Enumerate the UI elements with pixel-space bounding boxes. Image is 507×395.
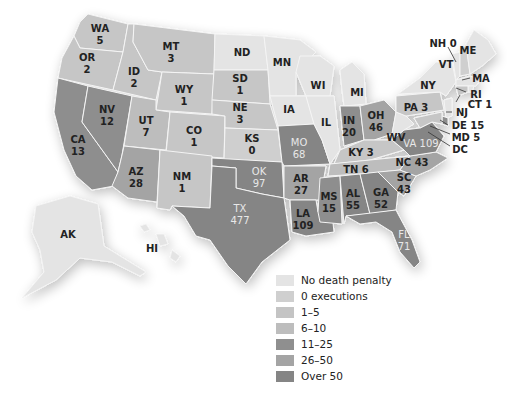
label-WI: WI — [311, 80, 326, 91]
label-MI: MI — [350, 87, 364, 98]
label-UT: UT — [139, 115, 154, 126]
legend-swatch — [276, 291, 294, 302]
label-GA: GA — [373, 187, 389, 198]
label-CT: CT 1 — [468, 99, 493, 110]
label-AL: AL — [346, 188, 361, 199]
value-LA: 109 — [293, 220, 314, 231]
value-UT: 7 — [143, 127, 150, 138]
state-AK[interactable] — [22, 196, 146, 298]
label-WY: WY — [175, 84, 194, 95]
us-map: WA 5 OR 2 CA 13 NV 12 ID 2 MT 3 WY 1 UT … — [0, 0, 507, 395]
label-LA: LA — [296, 208, 310, 219]
label-ND: ND — [234, 47, 251, 58]
label-OH: OH — [368, 110, 385, 121]
state-MI[interactable] — [340, 62, 366, 106]
legend-swatch — [276, 323, 294, 334]
label-IA: IA — [283, 104, 295, 115]
legend-item-26-50: 26–50 — [276, 352, 392, 368]
value-MO: 68 — [293, 149, 306, 160]
value-IN: 20 — [342, 127, 356, 138]
value-SC: 43 — [397, 184, 411, 195]
legend-label: 11–25 — [301, 338, 333, 350]
legend-swatch — [276, 339, 294, 350]
legend-label: 1–5 — [301, 306, 320, 318]
label-AK: AK — [60, 229, 77, 240]
label-HI: HI — [146, 243, 158, 254]
label-IN: IN — [343, 115, 355, 126]
legend-item-1-5: 1–5 — [276, 304, 392, 320]
value-GA: 52 — [374, 199, 388, 210]
label-KS: KS — [245, 133, 260, 144]
label-KY: KY 3 — [348, 147, 373, 158]
label-TN: TN 6 — [343, 164, 369, 175]
label-CO: CO — [186, 125, 202, 136]
legend-label: No death penalty — [301, 274, 392, 286]
value-OH: 46 — [369, 122, 383, 133]
state-NJ[interactable] — [444, 98, 452, 118]
state-CT[interactable] — [456, 86, 468, 96]
label-OK: OK — [252, 166, 267, 177]
label-MN: MN — [273, 57, 291, 68]
legend-item-11-25: 11–25 — [276, 336, 392, 352]
label-CA: CA — [70, 134, 85, 145]
label-ME: ME — [460, 45, 477, 56]
value-CA: 13 — [71, 146, 85, 157]
legend-item-0-executions: 0 executions — [276, 288, 392, 304]
value-NE: 3 — [237, 114, 244, 125]
map-legend: No death penalty 0 executions 1–5 6–10 1… — [276, 272, 392, 384]
value-SD: 1 — [237, 85, 244, 96]
label-SC: SC — [397, 172, 412, 183]
label-WA: WA — [91, 23, 110, 34]
legend-label: Over 50 — [301, 370, 343, 382]
value-MS: 15 — [322, 203, 336, 214]
value-TX: 477 — [230, 215, 249, 226]
label-NM: NM — [173, 171, 191, 182]
value-OK: 97 — [253, 178, 266, 189]
label-SD: SD — [232, 73, 248, 84]
label-NY: NY — [420, 80, 436, 91]
label-DE: DE 15 — [452, 120, 485, 131]
label-NC: NC 43 — [395, 157, 428, 168]
legend-swatch — [276, 355, 294, 366]
label-NJ: NJ — [456, 107, 468, 118]
label-VA: VA 109 — [403, 138, 438, 149]
value-AZ: 28 — [129, 178, 143, 189]
value-OR: 2 — [84, 64, 91, 75]
value-AR: 27 — [294, 185, 308, 196]
legend-swatch — [276, 307, 294, 318]
value-MT: 3 — [168, 53, 175, 64]
value-ID: 2 — [131, 78, 138, 89]
value-WY: 1 — [181, 96, 188, 107]
label-MT: MT — [163, 41, 180, 52]
legend-swatch — [276, 371, 294, 382]
value-KS: 0 — [249, 145, 256, 156]
value-NM: 1 — [179, 183, 186, 194]
label-OR: OR — [79, 52, 96, 63]
label-NV: NV — [99, 104, 115, 115]
legend-label: 0 executions — [301, 290, 368, 302]
legend-swatch — [276, 275, 294, 286]
label-DC: DC — [452, 144, 468, 155]
legend-item-no-death-penalty: No death penalty — [276, 272, 392, 288]
label-MO: MO — [291, 137, 308, 148]
legend-label: 26–50 — [301, 354, 333, 366]
label-TX: TX — [233, 203, 247, 214]
value-WA: 5 — [97, 35, 104, 46]
value-AL: 55 — [346, 200, 360, 211]
label-AR: AR — [293, 173, 309, 184]
label-IL: IL — [321, 117, 332, 128]
label-VT: VT — [439, 59, 454, 70]
value-FL: 71 — [398, 241, 411, 252]
legend-item-6-10: 6–10 — [276, 320, 392, 336]
label-MS: MS — [320, 191, 337, 202]
label-NH: NH 0 — [429, 38, 456, 49]
label-PA: PA 3 — [404, 102, 429, 113]
legend-label: 6–10 — [301, 322, 326, 334]
legend-item-over-50: Over 50 — [276, 368, 392, 384]
value-NV: 12 — [100, 116, 114, 127]
value-CO: 1 — [191, 137, 198, 148]
label-ID: ID — [128, 66, 140, 77]
label-MA: MA — [472, 73, 490, 84]
label-FL: FL — [398, 229, 410, 240]
label-NE: NE — [232, 102, 247, 113]
